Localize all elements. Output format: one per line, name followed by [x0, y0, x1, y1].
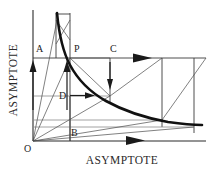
hyperbola-curve	[57, 13, 202, 125]
diagram-canvas: A P C D B O ASYMPTOTE ASYMPTOTE	[0, 0, 208, 171]
arrow-c-down	[107, 62, 113, 90]
origin-label: O	[24, 143, 31, 154]
point-label-A: A	[36, 43, 44, 54]
hyperbola-asymptote-figure: A P C D B O ASYMPTOTE ASYMPTOTE	[0, 0, 208, 171]
horizontal-asymptote-label: ASYMPTOTE	[86, 154, 158, 166]
arrow-bottom-axis-right	[126, 136, 145, 145]
vertical-asymptote-label: ASYMPTOTE	[7, 44, 19, 116]
point-label-B: B	[71, 127, 78, 138]
point-label-D: D	[59, 90, 66, 101]
point-label-P: P	[74, 43, 80, 54]
radius-O-to-curve-inner	[33, 120, 162, 141]
arrow-pb-up	[64, 60, 71, 110]
arrow-y-axis-up	[30, 60, 37, 110]
arrow-top-rail-right	[133, 54, 152, 63]
point-label-C: C	[110, 43, 117, 54]
diagonal-curve-to-right-inner	[110, 58, 162, 96]
arrow-d-right	[70, 92, 95, 99]
radius-O-to-curve-outer	[33, 127, 194, 141]
radius-O-to-top	[33, 20, 57, 141]
diagonal-curve-to-right-outer	[162, 58, 206, 120]
